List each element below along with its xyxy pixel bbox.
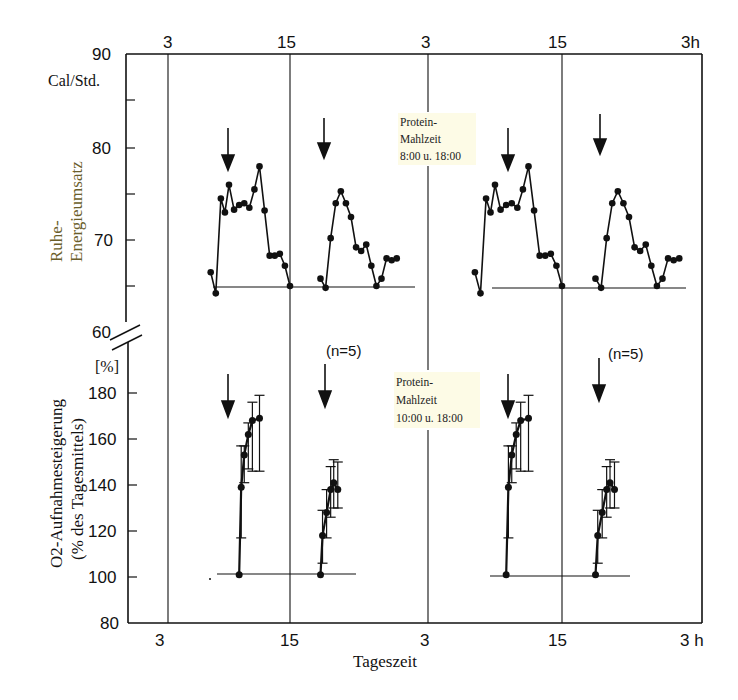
ytick-label: 160 xyxy=(88,430,116,449)
bottom-xtick-label: 3 h xyxy=(680,631,704,650)
top-y-unit: Cal/Std. xyxy=(48,72,100,89)
data-point xyxy=(236,571,243,578)
data-point xyxy=(525,163,532,170)
series-layer xyxy=(207,163,682,578)
data-point xyxy=(542,252,549,259)
data-point xyxy=(503,571,510,578)
arrow-down-icon xyxy=(593,358,605,401)
energy-series xyxy=(592,188,682,291)
data-point xyxy=(261,207,268,214)
data-point xyxy=(648,262,655,269)
data-point xyxy=(520,186,527,193)
data-point xyxy=(592,275,599,282)
bottom-y-unit: [%] xyxy=(95,358,119,375)
protein-meal-chart: 3 15 3 15 3h 3 15 3 15 3 h Tageszeit 90 … xyxy=(0,0,738,700)
arrow-down-icon xyxy=(594,114,606,154)
data-point xyxy=(323,509,330,516)
data-point xyxy=(492,182,499,189)
x-axis-title: Tageszeit xyxy=(353,652,417,671)
ytick-label: 90 xyxy=(92,45,111,64)
annotation-line: Mahlzeit xyxy=(396,394,438,406)
energy-series xyxy=(207,163,293,297)
bottom-y-tick-labels: 180 160 140 120 100 80 xyxy=(88,384,119,633)
data-point xyxy=(245,431,252,438)
data-point xyxy=(514,205,521,212)
energy-series xyxy=(472,163,566,297)
data-point xyxy=(251,186,258,193)
data-point xyxy=(246,205,253,212)
data-point xyxy=(670,257,677,264)
data-point xyxy=(207,269,214,276)
top-x-tick-labels: 3 15 3 15 3h xyxy=(163,33,700,52)
top-xtick-label: 15 xyxy=(548,33,567,52)
o2-series xyxy=(236,395,265,578)
data-point xyxy=(343,200,350,207)
data-point xyxy=(626,214,633,221)
data-point xyxy=(222,209,229,216)
data-point xyxy=(327,235,334,242)
ytick-label: 100 xyxy=(88,568,116,587)
data-point xyxy=(642,241,649,248)
data-point xyxy=(505,484,512,491)
annotation-line: Mahlzeit xyxy=(400,133,442,145)
data-point xyxy=(483,195,490,202)
o2-series xyxy=(317,460,343,579)
data-point xyxy=(531,207,538,214)
data-point xyxy=(553,262,560,269)
data-point xyxy=(525,415,532,422)
top-xtick-label: 3h xyxy=(681,33,700,52)
data-point xyxy=(358,248,365,255)
data-point xyxy=(611,486,618,493)
ytick-label: 140 xyxy=(88,476,116,495)
top-y-tick-labels: 90 80 70 60 xyxy=(92,45,113,342)
bottom-y-axis-title: O2-Aufnahmesteigerung (% des Tagesmittel… xyxy=(47,398,87,568)
arrow-down-icon xyxy=(502,128,514,170)
ytick-label: 80 xyxy=(100,614,119,633)
top-xtick-label: 15 xyxy=(277,33,296,52)
data-point xyxy=(603,486,610,493)
data-point xyxy=(241,200,248,207)
data-point xyxy=(334,486,341,493)
data-point xyxy=(256,163,263,170)
data-point xyxy=(256,415,263,422)
annotation-line: 8:00 u. 18:00 xyxy=(400,150,461,162)
bottom-ylabel-line2: (% des Tagesmittels) xyxy=(68,418,87,560)
top-ylabel-line1: Ruhe- xyxy=(47,220,66,262)
data-point xyxy=(631,244,638,251)
data-point xyxy=(249,417,256,424)
data-point xyxy=(487,209,494,216)
data-point xyxy=(363,241,370,248)
bottom-xtick-label: 15 xyxy=(548,631,567,650)
data-point xyxy=(319,532,326,539)
ytick-label: 80 xyxy=(92,139,111,158)
data-point xyxy=(508,452,515,459)
data-point xyxy=(238,484,245,491)
bottom-xtick-label: 3 xyxy=(420,631,429,650)
data-point xyxy=(615,188,622,195)
data-point xyxy=(231,206,238,213)
o2-series xyxy=(503,395,534,578)
top-ylabel-line2: Energieumsatz xyxy=(67,161,86,262)
data-point xyxy=(676,255,683,262)
bottom-ylabel-line1: O2-Aufnahmesteigerung xyxy=(47,398,66,568)
arrow-down-icon xyxy=(222,374,234,417)
annotation-line: Protein- xyxy=(396,376,433,388)
data-point xyxy=(393,255,400,262)
energy-series xyxy=(317,188,400,291)
data-point xyxy=(503,202,510,209)
data-point xyxy=(599,509,606,516)
data-point xyxy=(513,431,520,438)
data-point xyxy=(592,571,599,578)
data-point xyxy=(317,275,324,282)
data-point xyxy=(609,200,616,207)
data-point xyxy=(378,275,385,282)
data-point xyxy=(348,214,355,221)
arrow-down-icon xyxy=(222,128,234,170)
data-point xyxy=(517,417,524,424)
arrow-down-icon xyxy=(502,374,514,417)
annotation-line: 10:00 u. 18:00 xyxy=(396,412,463,424)
data-point xyxy=(594,532,601,539)
arrow-down-icon xyxy=(318,118,330,158)
data-point xyxy=(332,200,339,207)
ytick-label: 70 xyxy=(94,231,113,250)
